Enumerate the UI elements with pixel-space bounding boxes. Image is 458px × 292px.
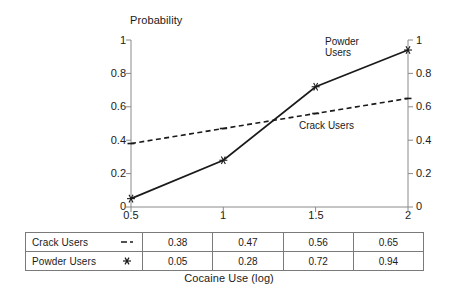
table-row-label-powder: Powder Users (26, 252, 143, 271)
asterisk-marker-icon (120, 256, 136, 266)
table-row-label-crack: Crack Users (26, 233, 143, 252)
table-row: Crack Users 0.38 0.47 0.56 0.65 (26, 233, 424, 252)
table-cell: 0.72 (283, 252, 353, 271)
series-line-crack-users (131, 98, 408, 143)
series-line-powder-users (131, 50, 408, 199)
y-axis-right-ticks (408, 40, 413, 207)
x-axis-ticks (131, 207, 408, 212)
table-cell: 0.28 (213, 252, 283, 271)
series-markers-crack-users (128, 98, 412, 143)
table-row: Powder Users 0.05 0.28 0.72 0.94 (26, 252, 424, 271)
table-cell: 0.05 (143, 252, 213, 271)
x-axis-title: Cocaine Use (log) (0, 272, 458, 284)
data-table: Crack Users 0.38 0.47 0.56 0.65 (25, 232, 424, 271)
table-cell: 0.38 (143, 233, 213, 252)
table-label-text: Crack Users (32, 237, 88, 248)
table-label-text: Powder Users (32, 256, 96, 267)
table-cell: 0.65 (353, 233, 423, 252)
chart-canvas: Probability 1 0.8 0.6 0.4 0.2 0 1 0.8 0.… (0, 0, 458, 292)
table-cell: 0.56 (283, 233, 353, 252)
table-cell: 0.94 (353, 252, 423, 271)
table-cell: 0.47 (213, 233, 283, 252)
y-axis-left-ticks (126, 40, 131, 207)
dash-marker-icon (120, 237, 136, 247)
